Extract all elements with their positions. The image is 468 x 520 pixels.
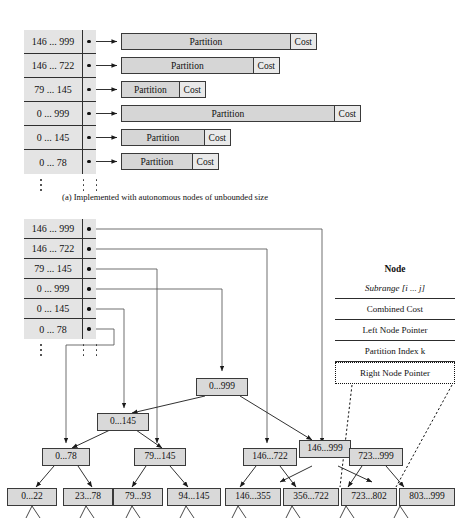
pointer-dot (87, 136, 91, 140)
range-label: 146 ... 999 (32, 36, 75, 47)
pointer-dot (87, 160, 91, 164)
range-label: 0 ... 145 (37, 303, 70, 314)
tree-leaf: 0...22 (7, 488, 57, 506)
panel-b-row-range: 0 ... 145 (24, 299, 82, 319)
legend-label: Combined Cost (367, 304, 423, 314)
panel-b-row-range: 79 ... 145 (24, 259, 82, 279)
pointer-dot (87, 64, 91, 68)
caption-a: (a) Implemented with autonomous nodes of… (0, 192, 330, 202)
range-label: 0 ... 78 (39, 157, 67, 168)
panel-b-row-range: 0 ... 999 (24, 279, 82, 299)
pointer-dot (87, 112, 91, 116)
legend-field-left-pointer: Left Node Pointer (335, 320, 455, 341)
tree-node: 723...999 (349, 448, 403, 466)
tree-leaf: 356...722 (283, 488, 339, 506)
legend-field-right-pointer: Right Node Pointer (335, 362, 455, 384)
legend-field-partition-index: Partition Index k (335, 341, 455, 362)
node-label: 0...999 (209, 382, 235, 392)
partition-cost-bar: Partition Cost (121, 105, 361, 122)
panel-b-row-range: 146 ... 722 (24, 239, 82, 259)
panel-a-row-range: 146 ... 722 (24, 54, 82, 78)
partition-segment: Partition (122, 154, 192, 169)
pointer-dot (87, 287, 91, 291)
partition-cost-bar: Partition Cost (121, 57, 280, 74)
range-label: 146 ... 999 (32, 223, 75, 234)
panel-a-row-range: 0 ... 78 (24, 150, 82, 174)
range-label: 0 ... 78 (39, 324, 67, 335)
node-label: 94...145 (179, 492, 210, 502)
figure-canvas: 146 ... 999 146 ... 722 79 ... 145 0 ...… (0, 0, 468, 520)
range-label: 0 ... 999 (37, 283, 70, 294)
node-label: 0...22 (21, 492, 42, 502)
panel-a-row-range: 0 ... 999 (24, 102, 82, 126)
legend-label: Right Node Pointer (360, 368, 430, 378)
panel-a-row-range: 79 ... 145 (24, 78, 82, 102)
partition-cost-bar: Partition Cost (121, 153, 219, 170)
pointer-dot (87, 267, 91, 271)
tree-node-root: 0...999 (196, 378, 248, 396)
partition-segment: Partition (122, 58, 253, 73)
range-label: 79 ... 145 (34, 263, 72, 274)
node-label: 146...722 (252, 452, 288, 462)
range-label: 146 ... 722 (32, 243, 75, 254)
range-label: 146 ... 722 (32, 60, 75, 71)
range-label: 0 ... 999 (37, 108, 70, 119)
pointer-dot (87, 307, 91, 311)
partition-cost-bar: Partition Cost (121, 33, 317, 50)
node-label: 146...355 (235, 492, 271, 502)
legend-field-subrange: Subrange [i ... j] (335, 278, 455, 299)
node-label: 79...93 (125, 492, 151, 502)
panel-a-row-range: 146 ... 999 (24, 30, 82, 54)
tree-node: 146...722 (243, 448, 297, 466)
tree-leaf: 723...802 (341, 488, 397, 506)
partition-cost-bar: Partition Cost (121, 129, 231, 146)
legend-field-combined-cost: Combined Cost (335, 299, 455, 320)
cost-segment: Cost (334, 106, 360, 121)
partition-cost-bar: Partition Cost (121, 81, 206, 98)
tree-leaf: 94...145 (167, 488, 221, 506)
cost-segment: Cost (192, 154, 218, 169)
node-label: 0...145 (110, 417, 136, 427)
partition-segment: Partition (122, 82, 179, 97)
tree-node: 0...78 (42, 448, 90, 466)
node-label: 146...999 (307, 444, 343, 454)
tree-leaf: 146...355 (225, 488, 281, 506)
cost-segment: Cost (253, 58, 279, 73)
pointer-dot (87, 327, 91, 331)
pointer-dot (87, 227, 91, 231)
cost-segment: Cost (290, 34, 316, 49)
node-label: 723...802 (351, 492, 387, 502)
tree-node: 146...999 (299, 440, 351, 458)
partition-segment: Partition (122, 34, 290, 49)
node-label: 0...78 (55, 452, 76, 462)
tree-node: 0...145 (97, 413, 149, 431)
legend-label: Subrange [i ... j] (365, 283, 425, 293)
tree-leaf: 803...999 (399, 488, 455, 506)
node-label: 803...999 (409, 492, 445, 502)
panel-b-row-range: 146 ... 999 (24, 219, 82, 239)
node-label: 723...999 (358, 452, 394, 462)
pointer-dot (87, 40, 91, 44)
tree-leaf: 79...93 (113, 488, 163, 506)
cost-segment: Cost (179, 82, 205, 97)
partition-segment: Partition (122, 106, 334, 121)
partition-segment: Partition (122, 130, 204, 145)
tree-node: 79...145 (134, 448, 186, 466)
panel-b-row-range: 0 ... 78 (24, 319, 82, 339)
pointer-dot (87, 88, 91, 92)
node-label: 356...722 (293, 492, 329, 502)
panel-a-row-range: 0 ... 145 (24, 126, 82, 150)
legend-title: Node (330, 264, 460, 274)
node-label: 79...145 (145, 452, 176, 462)
range-label: 79 ... 145 (34, 84, 72, 95)
pointer-dot (87, 247, 91, 251)
legend-label: Left Node Pointer (363, 325, 428, 335)
tree-leaf: 23...78 (63, 488, 113, 506)
range-label: 0 ... 145 (37, 132, 70, 143)
cost-segment: Cost (204, 130, 230, 145)
node-label: 23...78 (75, 492, 101, 502)
legend-label: Partition Index k (365, 346, 426, 356)
